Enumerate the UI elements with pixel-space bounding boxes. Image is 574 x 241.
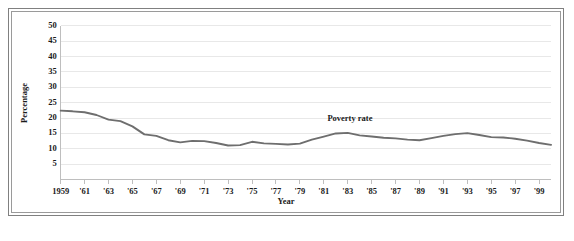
y-axis-title: Percentage [19,72,29,134]
y-tick-label: 40 [31,51,57,61]
x-tick-label: '99 [524,186,554,196]
y-tick-label: 30 [31,81,57,91]
y-tick-label: 35 [31,66,57,76]
y-tick-label: 25 [31,97,57,107]
poverty-rate-line-chart [12,12,560,212]
y-tick-label: 45 [31,35,57,45]
poverty-rate-annotation-label: Poverty rate [327,113,372,123]
y-tick-label: 5 [31,158,57,168]
poverty-rate-line-series [61,111,551,146]
figure-border-inner: Percentage Year 5101520253035404550 1959… [11,11,561,213]
figure-border-outer: Percentage Year 5101520253035404550 1959… [8,8,564,216]
y-tick-label: 20 [31,112,57,122]
y-tick-label: 15 [31,127,57,137]
y-tick-label: 50 [31,20,57,30]
gridlines [61,26,551,165]
data-line-poverty-rate [61,111,551,146]
x-axis-tick-marks [61,180,539,184]
x-axis-title: Year [12,196,560,206]
y-tick-label: 10 [31,143,57,153]
